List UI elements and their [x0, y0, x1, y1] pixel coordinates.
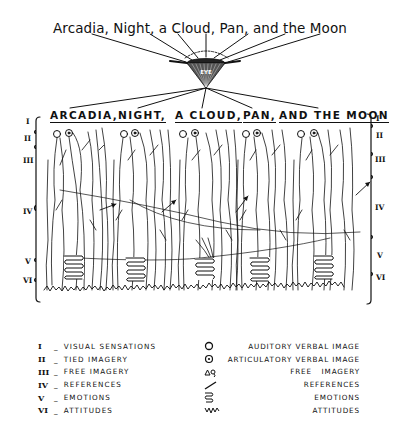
level-left-3: III — [23, 156, 34, 165]
level-right-4: IV — [375, 203, 384, 212]
legend-numeral: III — [38, 367, 52, 377]
legend-levels: I_VISUAL SENSATIONS II_TIED IMAGERY III_… — [38, 340, 156, 417]
legend-symbol-label: EMOTIONS — [314, 393, 360, 402]
eye-label: EYE — [200, 69, 212, 75]
word-arcadia: ARCADIA, — [50, 109, 118, 123]
level-left-1: I — [26, 117, 30, 126]
open-circle-icon — [204, 341, 224, 351]
level-right-3: III — [375, 155, 386, 164]
legend-symbol-row: ARTICULATORY VERBAL IMAGE — [204, 353, 360, 366]
legend-dash: _ — [54, 367, 59, 376]
legend-numeral: IV — [38, 380, 52, 390]
word-and-the-moon: AND THE MOON — [279, 109, 389, 123]
legend-level-row: IV_REFERENCES — [38, 378, 156, 391]
level-right-6: VI — [376, 273, 385, 282]
word-night: NIGHT, — [118, 109, 166, 123]
left-brace — [35, 117, 41, 302]
reference-arrows — [100, 182, 370, 212]
legend-symbol-row: REFERENCES — [204, 378, 360, 391]
legend-symbol-row: ATTITUDES — [204, 404, 360, 417]
legend-level-label: ATTITUDES — [64, 406, 113, 415]
word-pan: PAN, — [243, 109, 276, 123]
legend-symbol-label: REFERENCES — [304, 380, 360, 389]
legend-level-label: REFERENCES — [64, 380, 122, 389]
coil-icon — [204, 392, 224, 404]
verbal-image-circles — [54, 130, 318, 138]
legend-dash: _ — [54, 342, 59, 351]
legend-numeral: I — [38, 341, 52, 351]
attitudes-baseline — [44, 281, 344, 291]
free-imagery-icon — [204, 367, 224, 377]
legend-numeral: V — [38, 393, 52, 403]
legend-symbol-row: AUDITORY VERBAL IMAGE — [204, 340, 360, 353]
legend-dash: _ — [54, 393, 59, 402]
level-left-4: IV — [23, 207, 32, 216]
legend-symbol-label: FREE IMAGERY — [290, 367, 360, 376]
level-right-1: I — [376, 114, 380, 123]
legend-level-row: II_TIED IMAGERY — [38, 353, 156, 366]
level-right-5: V — [377, 251, 383, 260]
legend-symbols: AUDITORY VERBAL IMAGE ARTICULATORY VERBA… — [204, 340, 360, 417]
legend-symbol-row: FREE IMAGERY — [204, 366, 360, 379]
eye-to-words-lines — [70, 88, 318, 108]
legend-level-label: TIED IMAGERY — [64, 355, 128, 364]
level-left-2: II — [24, 134, 31, 143]
legend-symbol-label: ATTITUDES — [312, 406, 360, 415]
level-left-5: V — [25, 257, 31, 266]
title-to-eye-lines — [92, 34, 320, 62]
legend-level-row: VI_ATTITUDES — [38, 404, 156, 417]
legend-symbol-label: ARTICULATORY VERBAL IMAGE — [228, 355, 360, 364]
legend-dash: _ — [54, 406, 59, 415]
legend-level-label: FREE IMAGERY — [64, 367, 130, 376]
legend-symbol-row: EMOTIONS — [204, 391, 360, 404]
reference-lines — [60, 190, 360, 260]
legend-level-row: I_VISUAL SENSATIONS — [38, 340, 156, 353]
word-a-cloud: A CLOUD, — [175, 109, 242, 123]
level-left-6: VI — [23, 276, 32, 285]
reference-arrow-icon — [204, 380, 224, 390]
legend-level-label: EMOTIONS — [64, 393, 111, 402]
legend-level-row: III_FREE IMAGERY — [38, 366, 156, 379]
legend-level-row: V_EMOTIONS — [38, 391, 156, 404]
dotted-circle-icon — [204, 354, 224, 364]
zigzag-icon — [204, 405, 224, 415]
level-right-2: II — [376, 131, 383, 140]
legend-level-label: VISUAL SENSATIONS — [64, 342, 156, 351]
legend-numeral: II — [38, 354, 52, 364]
legend-symbol-label: AUDITORY VERBAL IMAGE — [248, 342, 360, 351]
right-brace — [367, 114, 373, 304]
legend-numeral: VI — [38, 405, 52, 415]
legend-dash: _ — [54, 355, 59, 364]
legend-dash: _ — [54, 380, 59, 389]
